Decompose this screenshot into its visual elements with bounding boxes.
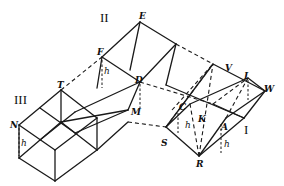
point-label-d: D [134,75,143,85]
point-label-e: E [138,11,146,21]
height-label-a: h [224,139,230,149]
box-region-iii [19,90,97,181]
prismoid-diagram: II III I E F T D M N V I W C K A S R h h… [0,0,284,186]
point-label-c: C [179,102,187,112]
point-label-t: T [57,80,65,90]
region-label-iii: III [14,92,27,107]
point-label-w: W [264,84,275,94]
slab-region-ii [61,22,265,150]
point-label-i: I [243,71,249,81]
height-label-c: h [185,120,191,130]
point-label-v: V [225,63,233,73]
height-label-n: h [21,138,27,148]
point-label-r: R [195,159,204,169]
point-label-f: F [96,47,104,57]
region-label-i: I [244,122,248,137]
point-label-n: N [9,120,19,130]
region-label-ii: II [100,10,109,25]
point-label-k: K [197,114,207,124]
point-label-m: M [130,107,142,117]
point-label-a: A [220,122,228,132]
point-label-s: S [161,138,168,148]
height-label-f: h [104,66,110,76]
